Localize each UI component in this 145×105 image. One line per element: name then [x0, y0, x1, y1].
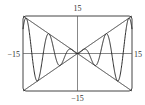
function-plot: 15 −15 −15 15: [0, 0, 145, 105]
x-tick-left-label: −15: [7, 50, 20, 59]
y-tick-top-label: 15: [74, 4, 82, 13]
x-tick-right-label: 15: [134, 50, 142, 59]
y-tick-bottom-label: −15: [71, 94, 84, 103]
